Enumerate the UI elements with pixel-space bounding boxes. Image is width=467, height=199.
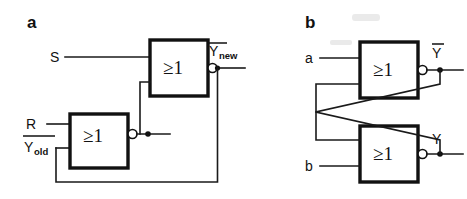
panel-a-letter: a xyxy=(27,13,37,32)
label-yold: Y xyxy=(24,139,34,155)
label-b-input-b: b xyxy=(305,158,313,174)
gate-a-bottom-symbol: ≥1 xyxy=(83,125,103,146)
panel-b: b a ≥1 Y ≥1 Y b xyxy=(305,13,463,182)
label-b-output-ybar: Y xyxy=(432,45,442,61)
panel-b-letter: b xyxy=(305,13,315,32)
junction-a-bottom-output xyxy=(145,131,151,137)
gate-a-top-symbol: ≥1 xyxy=(163,57,183,78)
gate-b-top-symbol: ≥1 xyxy=(373,59,393,80)
scan-artifact xyxy=(330,40,352,45)
logic-circuit-diagram: a S ≥1 Y new R Y old xyxy=(0,0,467,199)
label-ynew: Y xyxy=(209,43,219,59)
circuit-canvas: a S ≥1 Y new R Y old xyxy=(0,0,467,199)
gate-b-top-output-bubble xyxy=(418,66,427,75)
gate-b-bottom-symbol: ≥1 xyxy=(373,143,393,164)
gate-a-bottom-output-bubble xyxy=(128,130,137,139)
label-r: R xyxy=(26,116,36,132)
label-b-input-a: a xyxy=(305,50,313,66)
label-ynew-subscript: new xyxy=(219,50,238,61)
scan-artifact xyxy=(352,14,380,21)
gate-b-bottom-output-bubble xyxy=(418,150,427,159)
panel-a: a S ≥1 Y new R Y old xyxy=(23,13,245,182)
label-s: S xyxy=(50,49,59,65)
label-yold-subscript: old xyxy=(34,146,48,157)
